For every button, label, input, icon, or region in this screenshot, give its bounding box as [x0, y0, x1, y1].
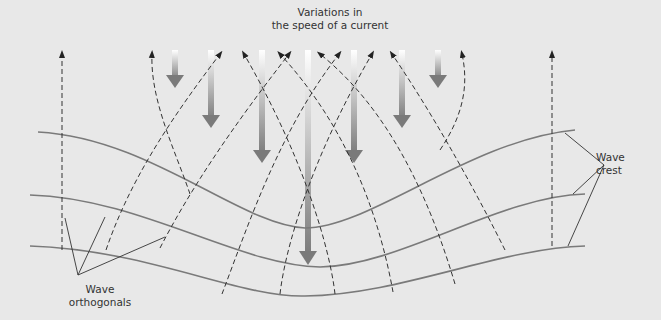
title-line-1: Variations in	[230, 6, 430, 19]
current-arrow-icon	[393, 50, 411, 128]
current-speed-arrows	[166, 50, 447, 265]
current-arrow-icon	[429, 50, 447, 88]
wave-refraction-diagram	[0, 0, 661, 320]
orthogonals-label-line-1: Wave	[40, 283, 160, 296]
crest-label-line-2: crest	[596, 164, 625, 177]
wave-orthogonals-label: Wave orthogonals	[40, 283, 160, 309]
current-arrow-icon	[345, 50, 363, 163]
current-arrow-icon	[253, 50, 271, 163]
wave-crest-label: Wave crest	[596, 151, 625, 177]
title-line-2: the speed of a current	[230, 19, 430, 32]
diagram-title: Variations in the speed of a current	[230, 6, 430, 32]
current-arrow-icon	[166, 50, 184, 88]
orthogonals-label-line-2: orthogonals	[40, 296, 160, 309]
current-arrow-icon	[299, 50, 317, 265]
crest-label-line-1: Wave	[596, 151, 625, 164]
current-arrow-icon	[202, 50, 220, 128]
